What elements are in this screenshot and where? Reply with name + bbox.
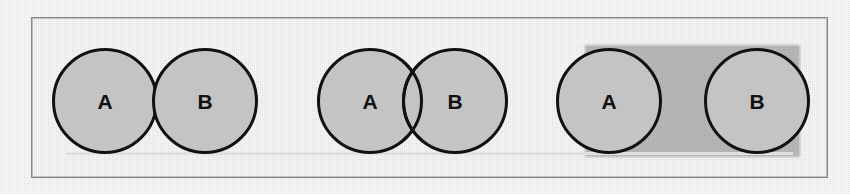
- frame-scanline: [66, 152, 793, 155]
- figure-frame: ABABAB: [31, 17, 828, 178]
- circle-tangent-b: B: [152, 48, 258, 154]
- circle-disjoint-b: B: [704, 48, 810, 154]
- circle-tangent-a: A: [52, 48, 158, 154]
- circle-label: B: [197, 91, 212, 112]
- circle-disjoint-a: A: [556, 48, 662, 154]
- circle-label: A: [97, 91, 112, 112]
- circle-label: A: [601, 91, 616, 112]
- circle-label: B: [749, 91, 764, 112]
- circle-label: B: [447, 91, 462, 112]
- figure-root: ABABAB: [0, 0, 850, 194]
- circle-label: A: [362, 91, 377, 112]
- circle-overlapping-b: B: [402, 48, 508, 154]
